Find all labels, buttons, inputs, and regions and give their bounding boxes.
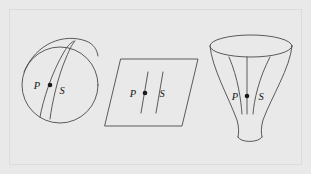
sphere-label-p: P [33, 80, 41, 91]
sphere-point-p-marker [48, 83, 53, 88]
sphere-panel: P S [22, 38, 98, 123]
sphere-label-s: S [59, 85, 65, 96]
plane-outline [105, 59, 198, 126]
plane-point-p-marker [143, 91, 148, 96]
sphere-equator-arc [24, 38, 98, 72]
funnel-rim-ellipse [210, 35, 292, 57]
funnel-point-p-marker [245, 94, 250, 99]
sphere-geodesic-left [40, 41, 74, 117]
funnel-label-p: P [231, 91, 239, 102]
funnel-base-curve [238, 137, 262, 142]
plane-panel: P S [105, 59, 198, 126]
figure-frame: P S P S [0, 0, 311, 174]
funnel-label-s: S [258, 91, 264, 102]
funnel-geodesic-right [253, 57, 270, 114]
sphere-geodesic-right [50, 41, 75, 119]
plane-label-s: S [159, 88, 165, 99]
plane-label-p: P [129, 88, 137, 99]
geodesic-figure: P S P S [0, 0, 311, 174]
funnel-wall-right [261, 46, 292, 137]
funnel-panel: P S [210, 35, 292, 142]
